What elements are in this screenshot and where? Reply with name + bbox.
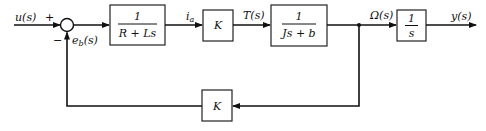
summing-junction: [61, 19, 74, 32]
block-diagram: u(s) + − eb(s) 1 R + Ls ia K T(s) 1 Js +…: [0, 0, 486, 131]
electrical-block: 1 R + Ls: [110, 5, 165, 45]
plus-sign: +: [45, 11, 54, 24]
torque-label: T(s): [243, 9, 265, 22]
svg-text:Js + b: Js + b: [280, 27, 315, 40]
svg-text:1: 1: [296, 10, 303, 23]
svg-text:1: 1: [134, 10, 141, 23]
svg-text:K: K: [213, 19, 223, 32]
torque-gain-block: K: [203, 10, 233, 41]
input-label: u(s): [15, 11, 36, 24]
minus-sign: −: [53, 34, 62, 47]
svg-text:1: 1: [408, 12, 415, 25]
svg-text:s: s: [409, 27, 415, 40]
back-emf-gain-block: K: [202, 90, 232, 121]
feedback-signal-label: eb(s): [72, 34, 98, 48]
svg-text:R + Ls: R + Ls: [118, 27, 157, 40]
current-label: ia: [186, 10, 195, 24]
integrator-block: 1 s: [397, 10, 426, 41]
svg-text:K: K: [212, 100, 222, 113]
speed-label: Ω(s): [369, 9, 393, 22]
output-label: y(s): [450, 10, 471, 23]
mechanical-block: 1 Js + b: [271, 5, 327, 46]
